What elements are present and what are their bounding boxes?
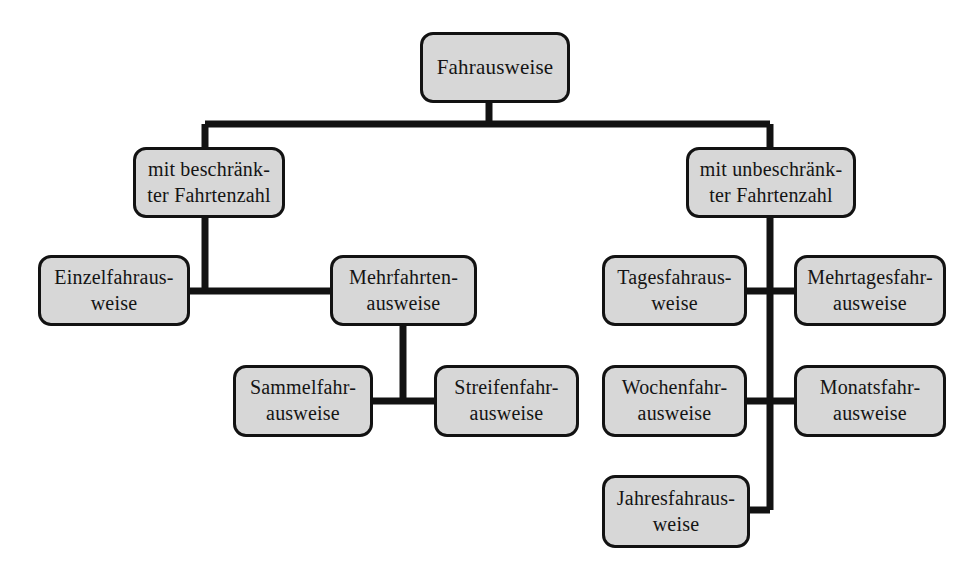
node-label: mit unbeschränk- ter Fahrtenzahl <box>694 157 849 208</box>
node-label: Fahrausweise <box>431 54 560 81</box>
node-label: Mehrtagesfahr- ausweise <box>801 265 939 316</box>
node-monatsfahrausweise[interactable]: Monatsfahr- ausweise <box>794 365 946 437</box>
node-tagesfahrausweise[interactable]: Tagesfahraus- weise <box>602 255 747 326</box>
node-label: Sammelfahr- ausweise <box>244 375 362 426</box>
node-label: Tagesfahraus- weise <box>611 265 737 316</box>
node-label: Monatsfahr- ausweise <box>814 375 927 426</box>
node-label: Streifenfahr- ausweise <box>448 375 564 426</box>
node-sammelfahrausweise[interactable]: Sammelfahr- ausweise <box>233 365 373 437</box>
node-jahresfahrausweise[interactable]: Jahresfahraus- weise <box>602 475 750 548</box>
node-label: Mehrfahrten- ausweise <box>343 265 464 316</box>
node-mehrfahrtenausweise[interactable]: Mehrfahrten- ausweise <box>330 255 477 326</box>
diagram-canvas: Fahrausweise mit beschränk- ter Fahrtenz… <box>0 0 979 585</box>
node-label: Wochenfahr- ausweise <box>616 375 734 426</box>
node-label: Einzelfahraus- weise <box>48 265 179 316</box>
node-mit-unbeschraenkter-fahrtenzahl[interactable]: mit unbeschränk- ter Fahrtenzahl <box>686 147 856 218</box>
node-fahrausweise[interactable]: Fahrausweise <box>420 32 570 103</box>
node-mehrtagesfahrausweise[interactable]: Mehrtagesfahr- ausweise <box>794 255 946 326</box>
node-label: Jahresfahraus- weise <box>611 486 741 537</box>
node-einzelfahrausweise[interactable]: Einzelfahraus- weise <box>38 255 190 326</box>
node-wochenfahrausweise[interactable]: Wochenfahr- ausweise <box>602 365 747 437</box>
node-mit-beschraenkter-fahrtenzahl[interactable]: mit beschränk- ter Fahrtenzahl <box>133 147 285 218</box>
node-label: mit beschränk- ter Fahrtenzahl <box>141 157 277 208</box>
node-streifenfahrausweise[interactable]: Streifenfahr- ausweise <box>434 365 579 437</box>
